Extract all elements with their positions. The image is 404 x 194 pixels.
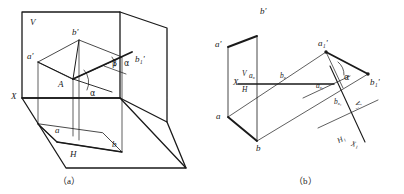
figure-root: V b' a' b₁' A α β α X a b H （a） <box>0 0 404 194</box>
label-b-x: bx <box>280 72 286 80</box>
caption-panel-a: （a） <box>58 174 80 187</box>
label-alpha-lower: α <box>90 90 95 98</box>
label-a-lower: a <box>216 112 221 121</box>
label-alpha-upper: α <box>124 60 129 68</box>
label-b-prime: b' <box>260 7 266 16</box>
label-a-prime: a' <box>215 40 221 49</box>
label-x-axis: X <box>11 92 17 101</box>
projection-quad-upper <box>38 40 122 79</box>
label-b1-prime: b₁' <box>135 55 145 64</box>
panel-a-drawing <box>0 0 202 194</box>
point-b1-prime <box>366 72 369 75</box>
panel-a-pictorial: V b' a' b₁' A α β α X a b H （a） <box>0 0 202 194</box>
label-b-prime: b' <box>72 28 78 37</box>
panel-b-orthographic: b' a' a₁' b₁' X V ax H bx ax₁ bx₁ V₁ H₁ … <box>202 0 404 194</box>
point-a1-prime <box>324 50 327 53</box>
line-aprime-A <box>38 62 73 79</box>
top-projection-ab <box>228 117 257 141</box>
h-plane-right-edge <box>167 122 186 168</box>
label-a1-prime: a₁' <box>318 39 328 48</box>
label-point-a-upper: A <box>58 80 64 89</box>
label-a-prime: a' <box>27 52 33 61</box>
label-x-axis: X <box>233 78 239 87</box>
front-projection-ab <box>228 36 257 47</box>
label-h-plane: H <box>242 86 247 94</box>
v-plane-outline <box>22 12 120 98</box>
label-x1-axis: X₁ <box>350 140 359 149</box>
line-A-to-bprime <box>73 40 79 79</box>
label-a-lower: a <box>55 126 60 135</box>
label-b1-prime: b₁' <box>370 78 380 87</box>
label-b-x1: bx₁ <box>334 98 341 106</box>
label-beta: β <box>112 60 117 68</box>
label-b-lower: b <box>112 140 117 149</box>
label-v-plane: V <box>30 18 36 27</box>
label-alpha: α <box>344 74 349 82</box>
label-v-plane: V <box>242 70 247 78</box>
caption-panel-b: （b） <box>294 174 317 187</box>
panel-b-drawing <box>202 0 404 194</box>
h-projection-quad <box>38 124 122 152</box>
label-a-x1: ax₁ <box>316 82 323 90</box>
label-b-lower: b <box>256 144 261 153</box>
label-a-x: ax <box>249 72 255 80</box>
label-h-plane: H <box>70 150 77 159</box>
